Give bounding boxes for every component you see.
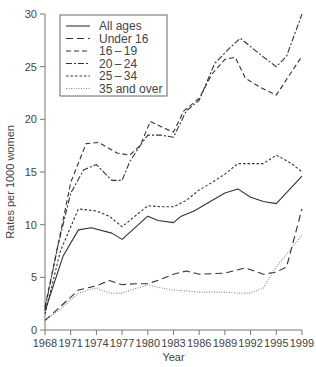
y-tick-label: 5 xyxy=(31,271,37,283)
x-tick-label: 1992 xyxy=(238,337,262,349)
series-line-under-16 xyxy=(45,209,302,321)
x-tick-label: 1983 xyxy=(161,337,185,349)
x-tick-label: 1986 xyxy=(187,337,211,349)
y-tick-label: 10 xyxy=(25,219,37,231)
x-tick-label: 1968 xyxy=(33,337,57,349)
x-tick-label: 1995 xyxy=(264,337,288,349)
x-axis-title: Year xyxy=(162,351,185,363)
x-tick-label: 1989 xyxy=(213,337,237,349)
series-line-all-ages xyxy=(45,176,302,311)
x-tick-label: 1977 xyxy=(110,337,134,349)
line-chart: 0510152025301968197119741977198019831986… xyxy=(0,0,316,367)
y-tick-label: 30 xyxy=(25,8,37,20)
x-tick-label: 1999 xyxy=(290,337,314,349)
x-tick-label: 1974 xyxy=(84,337,108,349)
y-tick-label: 25 xyxy=(25,61,37,73)
series-line-25-34 xyxy=(45,155,302,314)
y-tick-label: 15 xyxy=(25,166,37,178)
y-tick-label: 0 xyxy=(31,324,37,336)
legend-label: 35 and over xyxy=(99,82,162,96)
x-tick-label: 1971 xyxy=(58,337,82,349)
y-axis-title: Rates per 1000 women xyxy=(4,125,16,239)
x-tick-label: 1980 xyxy=(136,337,160,349)
y-tick-label: 20 xyxy=(25,113,37,125)
series-line-35-and-over xyxy=(45,235,302,320)
